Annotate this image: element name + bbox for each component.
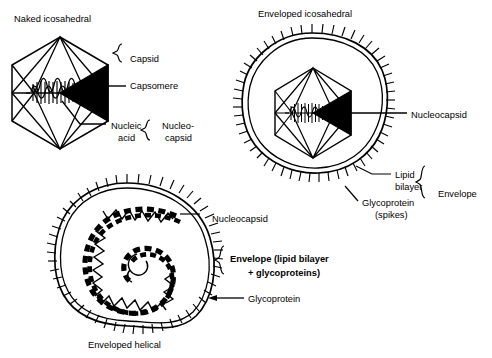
label-lipid-bilayer-line1: Lipid: [395, 170, 415, 180]
label-envelope-icosahedral: Envelope: [438, 189, 477, 199]
panel-title-enveloped-icosahedral: Enveloped icosahedral: [258, 9, 352, 19]
label-nucleocapsid-icosahedral: Nucleocapsid: [411, 110, 467, 120]
panel-title-enveloped-helical: Enveloped helical: [88, 340, 161, 350]
panel-naked-icosahedral: Naked icosahedral: [12, 14, 194, 149]
glycoprotein-arrow: [208, 295, 244, 301]
figure-canvas: Naked icosahedral: [0, 0, 492, 358]
glycoprotein-spikes-icosahedral: [233, 24, 395, 182]
label-nucleocapsid-line1: Nucleo-: [162, 121, 194, 131]
envelope-membrane-inner-icosahedral: [248, 38, 382, 168]
label-glycoprotein-spikes-line1: Glycoprotein: [362, 198, 414, 208]
panel-enveloped-icosahedral: Enveloped icosahedral: [233, 9, 477, 220]
panel-enveloped-helical: Nucleocapsid Envelope (lipid bilayer + g…: [47, 174, 329, 350]
label-nucleic-acid-line2: acid: [118, 133, 135, 143]
label-capsomere: Capsomere: [130, 81, 178, 91]
helical-nucleocapsid: [85, 209, 180, 313]
label-nucleocapsid-line2: capsid: [165, 133, 192, 143]
nucleic-acid-zigzag-core: [128, 254, 148, 282]
nucleocapsid-brace: [141, 120, 150, 140]
virus-structure-diagram: Naked icosahedral: [0, 0, 492, 358]
label-envelope-helical-line1: Envelope (lipid bilayer: [230, 254, 329, 264]
label-capsid: Capsid: [130, 54, 159, 64]
glycoprotein-spikes-leader: [345, 186, 358, 201]
label-nucleocapsid-helical: Nucleocapsid: [212, 214, 268, 224]
envelope-membrane-outer-icosahedral: [242, 33, 387, 173]
capsid-brace: [113, 44, 122, 62]
label-glycoprotein-spikes-line2: (spikes): [375, 210, 408, 220]
label-nucleic-acid-line1: Nucleic: [111, 121, 142, 131]
label-envelope-helical-line2: + glycoproteins): [248, 268, 320, 278]
lipid-bilayer-leader: [356, 166, 391, 174]
panel-title-naked-icosahedral: Naked icosahedral: [14, 14, 91, 24]
label-glycoprotein-helical: Glycoprotein: [248, 294, 300, 304]
